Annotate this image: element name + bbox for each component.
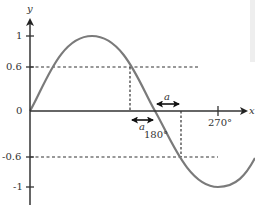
x-axis-label: x — [249, 105, 255, 116]
y-tick-label-0: 0 — [16, 105, 22, 116]
interval-label-a-upper: a — [164, 91, 170, 102]
x-tick-label-270: 270° — [208, 117, 232, 128]
interval-label-a-lower: a — [139, 121, 145, 132]
y-tick-label-neg-0.6: -0.6 — [2, 151, 21, 162]
sine-graph: y x 1 0.6 0 -0.6 -1 270° 180° a a — [0, 0, 255, 213]
y-tick-label-neg-1: -1 — [13, 181, 23, 192]
y-axis-label: y — [26, 3, 33, 14]
x-label-180: 180° — [144, 129, 168, 140]
y-tick-label-0.6: 0.6 — [6, 61, 22, 72]
cropped-side-panel — [250, 0, 255, 62]
y-tick-label-1: 1 — [16, 30, 22, 41]
